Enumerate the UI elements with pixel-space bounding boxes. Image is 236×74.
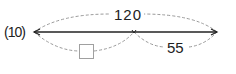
answer-box[interactable] <box>79 44 94 59</box>
start-label: (10) <box>4 25 25 39</box>
total-label: 120 <box>112 7 144 22</box>
right-segment-label: 55 <box>165 40 186 55</box>
segment-diagram: (10) 120 55 <box>0 0 236 74</box>
